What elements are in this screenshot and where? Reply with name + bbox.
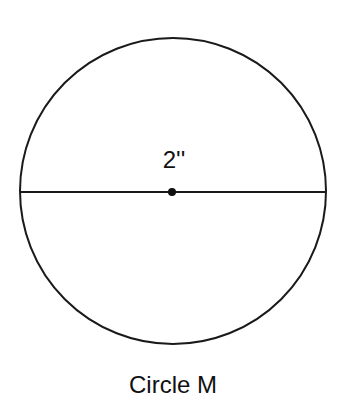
diameter-label: 2'': [163, 146, 186, 173]
center-point: [168, 188, 176, 196]
circle-diagram: 2'' Circle M: [0, 0, 347, 415]
circle-caption: Circle M: [129, 371, 217, 398]
